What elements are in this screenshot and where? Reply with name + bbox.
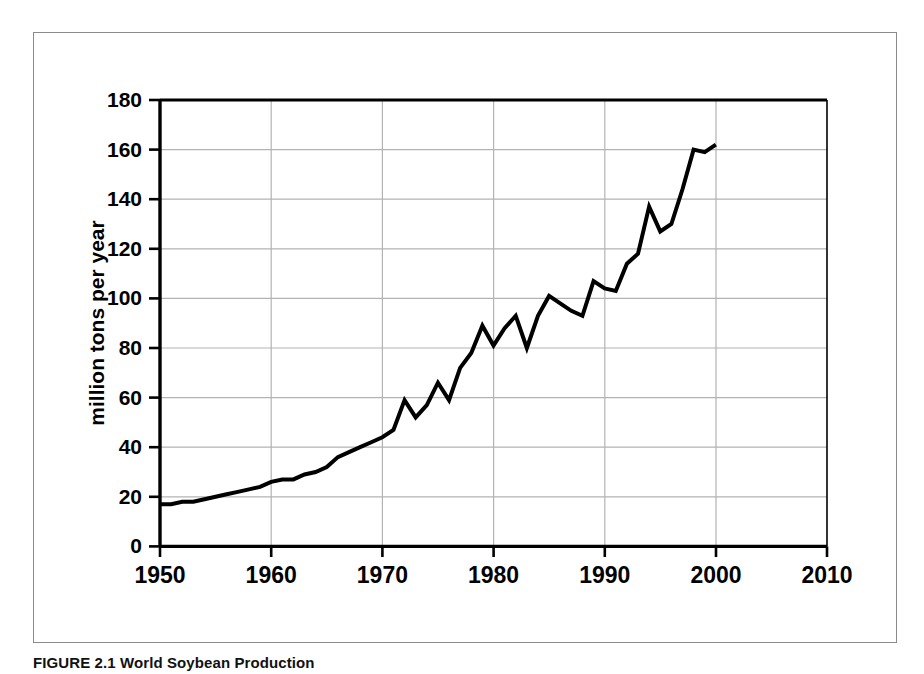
data-series-line [160,145,716,505]
figure-caption-label: FIGURE 2.1 [33,654,116,671]
y-tick-label: 180 [107,88,142,111]
y-tick-labels: 180 160 140 120 100 80 60 40 20 0 [107,88,142,557]
line-chart: 180 160 140 120 100 80 60 40 20 0 1950 1… [0,0,924,674]
y-tick-label: 120 [107,237,142,260]
x-tick-label: 1980 [468,562,519,588]
x-tick-label: 1960 [246,562,297,588]
x-tick-label: 2000 [690,562,741,588]
x-tick-labels: 1950 1960 1970 1980 1990 2000 2010 [134,562,852,588]
x-tick-label: 2010 [801,562,852,588]
figure-root: 180 160 140 120 100 80 60 40 20 0 1950 1… [0,0,924,674]
y-axis-title: million tons per year [85,220,108,425]
y-tick-label: 60 [119,386,142,409]
y-tick-label: 0 [130,534,142,557]
vertical-gridlines [271,100,716,546]
y-tick-label: 80 [119,336,142,359]
x-tick-label: 1990 [579,562,630,588]
figure-caption-title: World Soybean Production [120,654,315,671]
y-tick-label: 40 [119,435,142,458]
y-tick-label: 140 [107,187,142,210]
figure-caption: FIGURE 2.1 World Soybean Production [33,654,893,671]
x-tick-label: 1970 [357,562,408,588]
y-tick-label: 20 [119,485,142,508]
y-tick-label: 160 [107,138,142,161]
x-tick-label: 1950 [134,562,185,588]
y-tick-label: 100 [107,286,142,309]
